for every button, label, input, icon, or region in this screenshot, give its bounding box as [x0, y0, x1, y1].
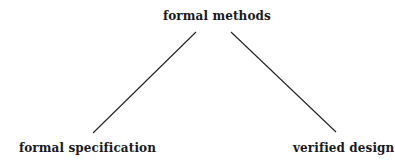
node-formal-specification: formal specification	[19, 141, 156, 155]
diagram-canvas: formal methods formal specification veri…	[0, 0, 395, 166]
node-formal-methods: formal methods	[163, 9, 271, 23]
node-verified-design: verified design	[293, 141, 394, 155]
edge-root-to-verified-design	[231, 32, 336, 132]
edge-root-to-formal-specification	[93, 32, 196, 133]
